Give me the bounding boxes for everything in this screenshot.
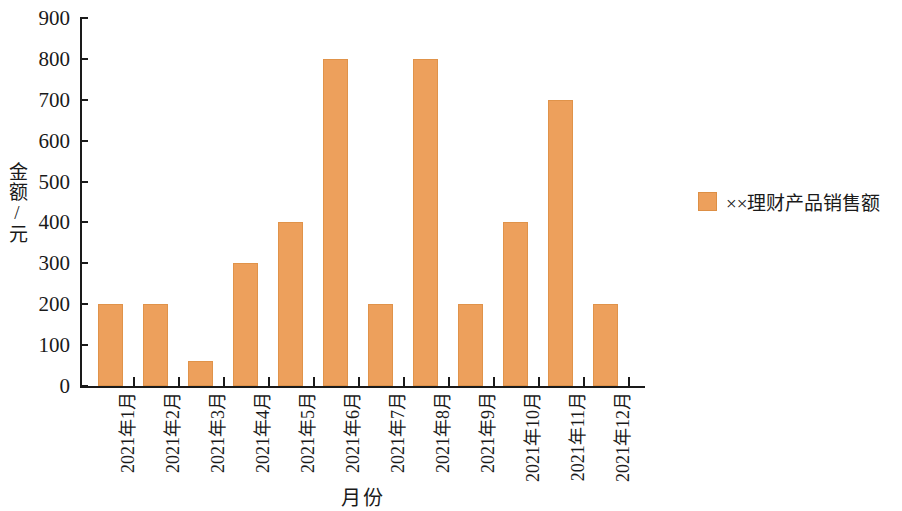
- bar: [368, 304, 393, 386]
- x-axis-tick-label: 2021年12月: [614, 392, 632, 482]
- y-axis-tick: [80, 17, 88, 19]
- y-axis-tick: [80, 181, 88, 183]
- y-axis-line: [80, 18, 82, 387]
- chart-legend: ××理财产品销售额: [698, 188, 880, 215]
- x-axis-tick-label: 2021年11月: [569, 392, 587, 481]
- x-axis-tick-label: 2021年7月: [389, 392, 407, 473]
- x-axis-tick-label: 2021年1月: [119, 392, 137, 473]
- x-axis-tick: [493, 377, 495, 386]
- y-axis-tick: [80, 385, 88, 387]
- plot-area: [80, 18, 645, 386]
- y-axis-tick-label: 400: [8, 212, 78, 233]
- x-axis-tick: [358, 377, 360, 386]
- y-axis-tick-label: 300: [8, 253, 78, 274]
- x-axis-tick: [313, 377, 315, 386]
- y-axis-tick: [80, 140, 88, 142]
- y-axis-tick-label: 500: [8, 171, 78, 192]
- x-axis-tick-label: 2021年9月: [479, 392, 497, 473]
- bar: [458, 304, 483, 386]
- bar: [278, 222, 303, 386]
- bar: [503, 222, 528, 386]
- x-axis-tick: [403, 377, 405, 386]
- y-axis-tick-label: 700: [8, 89, 78, 110]
- x-axis-tick: [133, 377, 135, 386]
- x-axis-tick: [448, 377, 450, 386]
- x-axis-title: 月份: [0, 482, 726, 511]
- y-axis-tick: [80, 262, 88, 264]
- legend-label: ××理财产品销售额: [726, 188, 880, 215]
- bar: [98, 304, 123, 386]
- x-axis-tick-label: 2021年8月: [434, 392, 452, 473]
- x-axis-line: [80, 386, 645, 388]
- y-axis-tick-labels: 0100200300400500600700800900: [0, 18, 78, 386]
- y-axis-tick: [80, 58, 88, 60]
- bar-chart: 金额/元 0100200300400500600700800900 2021年1…: [0, 0, 902, 511]
- bar: [323, 59, 348, 386]
- x-axis-tick-label: 2021年6月: [344, 392, 362, 473]
- x-axis-tick-label: 2021年4月: [254, 392, 272, 473]
- bar: [593, 304, 618, 386]
- y-axis-tick-label: 800: [8, 48, 78, 69]
- x-axis-tick-label: 2021年2月: [164, 392, 182, 473]
- x-axis-tick: [268, 377, 270, 386]
- y-axis-tick: [80, 344, 88, 346]
- bar: [188, 361, 213, 386]
- x-axis-tick-label: 2021年10月: [524, 392, 542, 482]
- y-axis-tick-label: 600: [8, 130, 78, 151]
- bar: [413, 59, 438, 386]
- y-axis-tick: [80, 99, 88, 101]
- y-axis-tick: [80, 303, 88, 305]
- bar: [548, 100, 573, 386]
- y-axis-tick-label: 100: [8, 335, 78, 356]
- x-axis-tick-label: 2021年5月: [299, 392, 317, 473]
- y-axis-tick-label: 0: [8, 376, 78, 397]
- bar: [143, 304, 168, 386]
- x-axis-tick: [583, 377, 585, 386]
- x-axis-tick-labels: 2021年1月2021年2月2021年3月2021年4月2021年5月2021年…: [80, 392, 645, 482]
- x-axis-tick: [628, 377, 630, 386]
- y-axis-tick-label: 200: [8, 294, 78, 315]
- legend-color-swatch: [698, 192, 717, 211]
- y-axis-tick: [80, 221, 88, 223]
- x-axis-tick: [178, 377, 180, 386]
- x-axis-tick: [223, 377, 225, 386]
- bar: [233, 263, 258, 386]
- y-axis-tick-label: 900: [8, 8, 78, 29]
- x-axis-tick-label: 2021年3月: [209, 392, 227, 473]
- x-axis-tick: [538, 377, 540, 386]
